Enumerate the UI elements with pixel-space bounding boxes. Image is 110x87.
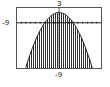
graph-window bbox=[0, 0, 110, 87]
